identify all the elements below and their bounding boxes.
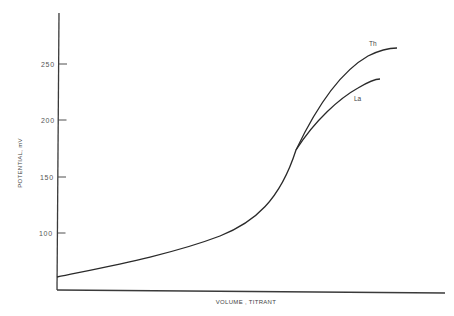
series-label-th: Th (369, 40, 377, 47)
y-tick-label-200: 200 (41, 117, 55, 124)
x-axis-label: VOLUME , TITRANT (216, 299, 276, 305)
series-label-la: La (354, 95, 362, 102)
curve-th (296, 48, 397, 150)
titration-chart: 250 200 150 100 POTENTIAL, mV VOLUME , T… (0, 0, 454, 316)
curve-la (296, 79, 380, 150)
y-axis-label: POTENTIAL, mV (17, 138, 23, 188)
x-axis (57, 290, 445, 293)
y-axis (57, 13, 59, 290)
curve-shared-segment (57, 150, 296, 277)
y-tick-label-150: 150 (40, 174, 54, 181)
y-tick-label-250: 250 (41, 61, 55, 68)
y-tick-label-100: 100 (39, 230, 53, 237)
